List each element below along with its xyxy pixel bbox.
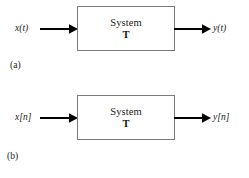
input-signal-label: x(t) (15, 23, 28, 33)
system-block-operator: T (122, 29, 129, 40)
system-block-title: System (110, 106, 142, 117)
system-block: System T (77, 6, 175, 51)
subfigure-caption-a: (a) (10, 60, 21, 70)
output-signal-label: y[n] (213, 112, 229, 122)
input-arrow-icon (40, 22, 78, 36)
output-arrow-icon (174, 111, 211, 125)
input-arrow-icon (40, 111, 78, 125)
system-block-title: System (110, 17, 142, 28)
output-signal-label: y(t) (213, 23, 226, 33)
input-signal-label: x[n] (15, 112, 31, 122)
subfigure-caption-b: (b) (7, 151, 18, 161)
system-block-operator: T (122, 118, 129, 129)
system-block: System T (77, 95, 175, 140)
output-arrow-icon (174, 22, 211, 36)
system-diagram-continuous-time: x(t) System T y(t) (a) (0, 0, 249, 89)
system-diagram-discrete-time: x[n] System T y[n] (b) (0, 89, 249, 178)
